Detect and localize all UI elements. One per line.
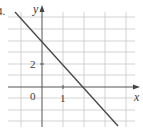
x-tick-label-1: 1 (60, 93, 66, 104)
y-axis-label: y (33, 3, 38, 15)
x-axis-arrow-icon (133, 85, 140, 90)
plot-area (0, 0, 143, 138)
ticks (40, 64, 63, 89)
problem-number: 4. (0, 6, 5, 17)
origin-label: 0 (30, 91, 36, 102)
x-axis-label: x (134, 91, 139, 103)
axes (8, 9, 136, 127)
y-tick-label-2: 2 (30, 59, 36, 70)
grid (8, 12, 135, 127)
y-axis-arrow-icon (40, 5, 45, 12)
